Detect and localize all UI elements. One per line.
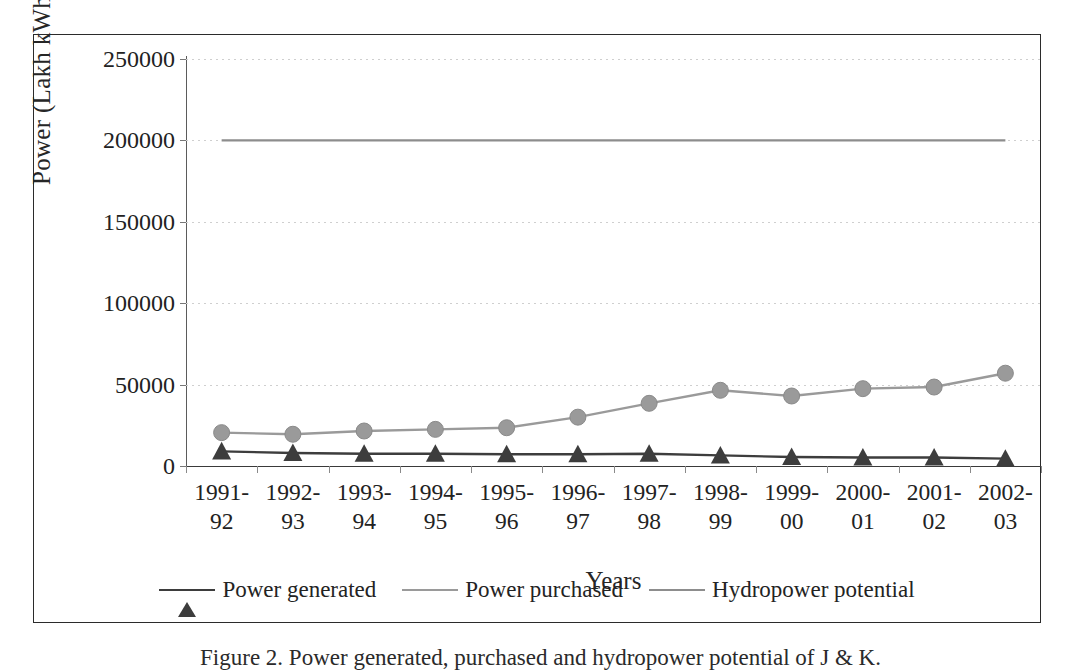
legend-key-icon [159, 581, 215, 599]
plot-area: 050000100000150000200000250000 1991-9219… [186, 59, 1041, 466]
data-point-marker [427, 421, 443, 437]
series-layer [186, 56, 1041, 468]
y-tick-label: 50000 [115, 371, 175, 398]
figure-caption: Figure 2. Power generated, purchased and… [0, 645, 1081, 671]
legend-line-icon [649, 589, 705, 591]
series-line-power-purchased [222, 373, 1006, 434]
x-tick-mark [1041, 466, 1042, 473]
data-point-marker [570, 409, 586, 425]
y-tick-label: 0 [163, 453, 175, 480]
x-tick-label-line: 03 [962, 507, 1048, 536]
legend-line-icon [402, 589, 458, 591]
legend-label: Hydropower potential [712, 577, 914, 603]
data-point-marker [285, 426, 301, 442]
chart-legend: Power generatedPower purchasedHydropower… [33, 577, 1041, 603]
data-point-marker [926, 379, 942, 395]
y-tick-label: 250000 [103, 46, 175, 73]
legend-key-icon [649, 581, 705, 599]
legend-item-power-purchased[interactable]: Power purchased [402, 577, 623, 603]
legend-label: Power purchased [465, 577, 623, 603]
y-axis-title: Power (Lakh kWhs) [28, 0, 56, 185]
legend-item-power-generated[interactable]: Power generated [159, 577, 376, 603]
x-tick-label-line: 2002- [962, 478, 1048, 507]
y-tick-label: 100000 [103, 290, 175, 317]
data-point-marker [784, 388, 800, 404]
legend-item-hydropower-potential[interactable]: Hydropower potential [649, 577, 914, 603]
legend-triangle-icon [178, 577, 196, 617]
data-point-marker [641, 395, 657, 411]
data-point-marker [499, 420, 515, 436]
data-point-marker [997, 365, 1013, 381]
data-point-marker [356, 423, 372, 439]
y-tick-label: 150000 [103, 208, 175, 235]
y-tick-label: 200000 [103, 127, 175, 154]
figure-frame: Power (Lakh kWhs) 0500001000001500002000… [33, 34, 1041, 623]
legend-key-icon [402, 581, 458, 599]
data-point-marker [214, 425, 230, 441]
x-tick-label: 2002-03 [962, 478, 1048, 536]
data-point-marker [712, 382, 728, 398]
legend-label: Power generated [222, 577, 376, 603]
data-point-marker [855, 381, 871, 397]
series-line-power-generated [222, 451, 1006, 458]
legend-marker-icon [178, 577, 196, 603]
